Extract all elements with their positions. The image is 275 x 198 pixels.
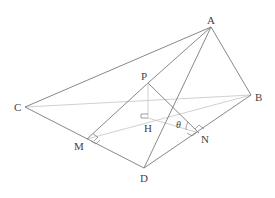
label-D: D (140, 172, 148, 184)
right-angle-mark-H (141, 114, 148, 118)
right-angle-mark-M2 (91, 140, 100, 144)
label-P: P (141, 70, 147, 82)
label-N: N (201, 133, 209, 145)
edge-CD (25, 107, 144, 168)
edge-CB (25, 95, 251, 107)
label-A: A (207, 14, 215, 26)
label-M: M (74, 140, 84, 152)
edge-AB (211, 27, 251, 95)
edge-PA (148, 27, 211, 83)
edge-AC (25, 27, 211, 107)
geometry-diagram: A B C D P H M N θ (0, 0, 275, 198)
label-theta: θ (176, 119, 181, 130)
label-H: H (144, 122, 152, 134)
label-C: C (14, 101, 21, 113)
angle-arc-theta (186, 122, 188, 130)
label-B: B (255, 91, 262, 103)
